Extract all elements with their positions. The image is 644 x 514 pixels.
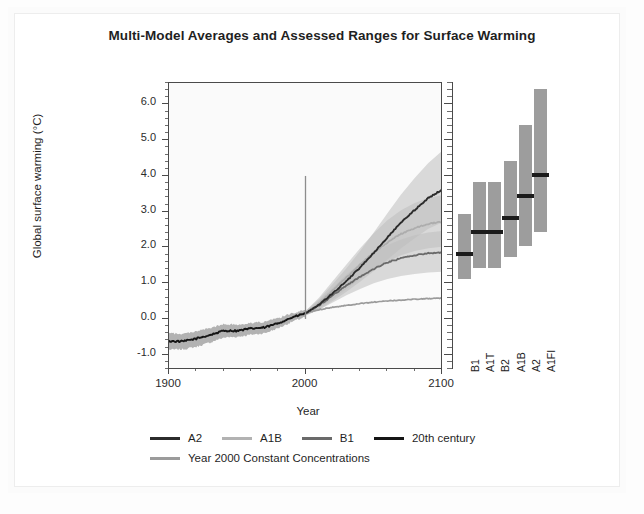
legend-item-year-2000-constant-concentrations: Year 2000 Constant Concentrations [150, 452, 370, 464]
legend-swatch [374, 437, 404, 440]
bar-label-b1: B1 [469, 359, 481, 372]
bar-axis-tick-minor [447, 304, 452, 305]
bar-axis-tick-major [444, 103, 452, 104]
best-estimate-mark [532, 173, 549, 177]
bar-axis-tick-minor [447, 82, 452, 83]
assessed-range-bar [473, 182, 486, 268]
bar-axis-tick-minor [447, 332, 452, 333]
timeseries-plot [169, 83, 442, 369]
bar-axis-tick-minor [447, 239, 452, 240]
bar-axis-tick-minor [447, 204, 452, 205]
y-tick-label: 1.0 [116, 274, 156, 286]
plot-area [168, 82, 442, 369]
legend-swatch [150, 457, 180, 460]
bar-axis-tick-minor [447, 339, 452, 340]
bar-axis-tick-minor [447, 118, 452, 119]
best-estimate-mark [517, 194, 534, 198]
legend-label: A2 [188, 432, 202, 444]
y-tick-label: -1.0 [116, 346, 156, 358]
bar-axis-tick-minor [447, 275, 452, 276]
bar-axis-tick-minor [447, 254, 452, 255]
legend-label: Year 2000 Constant Concentrations [188, 452, 370, 464]
bar-axis-tick-minor [447, 289, 452, 290]
best-estimate-mark [502, 216, 519, 220]
bar-axis-tick-minor [447, 168, 452, 169]
x-tick-label: 2000 [275, 377, 335, 389]
bar-axis-tick-minor [447, 161, 452, 162]
bar-axis-tick-minor [447, 368, 452, 369]
legend-label: B1 [340, 432, 354, 444]
legend-row: A2A1BB120th century [150, 432, 570, 444]
y-tick-label: 6.0 [116, 95, 156, 107]
bar-axis-tick-minor [447, 89, 452, 90]
bar-label-a1fi: A1FI [545, 350, 557, 372]
bar-axis-tick-minor [447, 182, 452, 183]
legend-swatch [222, 437, 252, 440]
bar-axis-tick-major [444, 318, 452, 319]
x-tick-label: 2100 [411, 377, 471, 389]
y-axis-label: Global surface warming (°C) [31, 71, 43, 301]
bar-label-a1t: A1T [484, 353, 496, 372]
y-tick-label: 2.0 [116, 238, 156, 250]
legend-row: Year 2000 Constant Concentrations [150, 452, 570, 464]
legend-item-a1b: A1B [222, 432, 282, 444]
y-tick-label: 5.0 [116, 131, 156, 143]
bar-axis-tick-minor [447, 232, 452, 233]
bar-axis-tick-major [444, 211, 452, 212]
bar-axis-tick-minor [447, 132, 452, 133]
legend-label: 20th century [412, 432, 475, 444]
y-axis: Global surface warming (°C) [0, 0, 168, 514]
bar-axis-tick-minor [447, 96, 452, 97]
legend: A2A1BB120th centuryYear 2000 Constant Co… [150, 432, 570, 472]
bar-axis-tick-minor [447, 189, 452, 190]
x-axis-label: Year [238, 405, 378, 417]
best-estimate-mark [456, 252, 473, 256]
bar-axis-tick-minor [447, 311, 452, 312]
bar-axis-tick-major [444, 246, 452, 247]
bar-axis-tick-minor [447, 218, 452, 219]
bar-axis-tick-minor [447, 111, 452, 112]
y-tick-label: 4.0 [116, 167, 156, 179]
bar-axis-tick-minor [447, 297, 452, 298]
bar-axis-tick-minor [447, 225, 452, 226]
bar-axis-tick-minor [447, 196, 452, 197]
plot-right-edge [441, 83, 442, 369]
legend-item-b1: B1 [302, 432, 354, 444]
bar-axis-tick-minor [447, 146, 452, 147]
bar-axis-tick-minor [447, 154, 452, 155]
assessed-range-bar [534, 89, 547, 232]
assessed-range-bar [488, 182, 501, 268]
x-axis-line [168, 368, 442, 369]
bar-axis-tick-minor [447, 325, 452, 326]
assessed-range-bar [458, 214, 471, 278]
bar-axis-tick-minor [447, 361, 452, 362]
bar-label-a1b: A1B [515, 352, 527, 372]
assessed-range-bar [519, 125, 532, 247]
bar-axis-tick-major [444, 139, 452, 140]
best-estimate-mark [486, 230, 503, 234]
bar-axis-tick-minor [447, 347, 452, 348]
bar-axis-tick-minor [447, 261, 452, 262]
bar-axis-tick-minor [447, 125, 452, 126]
bar-label-b2: B2 [499, 359, 511, 372]
y-tick-label: 0.0 [116, 310, 156, 322]
legend-item-20th-century: 20th century [374, 432, 475, 444]
legend-swatch [150, 437, 180, 440]
bar-label-a2: A2 [530, 359, 542, 372]
y-tick-label: 3.0 [116, 203, 156, 215]
legend-swatch [302, 437, 332, 440]
figure-page: Multi-Model Averages and Assessed Ranges… [0, 0, 644, 514]
legend-item-a2: A2 [150, 432, 202, 444]
bar-axis-tick-major [444, 282, 452, 283]
legend-label: A1B [260, 432, 282, 444]
assessed-range-bar [504, 161, 517, 258]
bar-axis-tick-major [444, 175, 452, 176]
assessed-ranges-panel [452, 82, 548, 368]
x-tick-label: 1900 [138, 377, 198, 389]
bar-axis-tick-major [444, 354, 452, 355]
bar-axis-tick-minor [447, 268, 452, 269]
